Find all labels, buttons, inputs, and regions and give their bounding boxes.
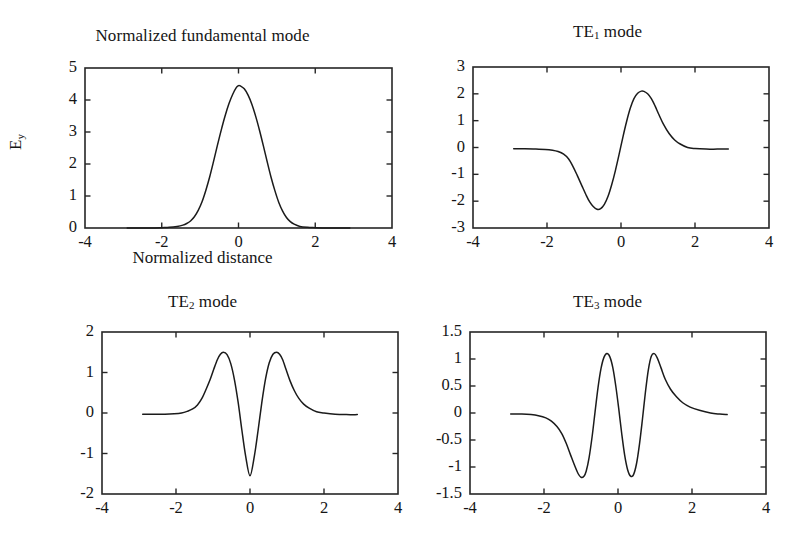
y-tick-label: 2: [33, 153, 77, 173]
y-tick-label: 3: [33, 121, 77, 141]
x-tick-label: 2: [299, 498, 349, 518]
y-tick-label: 2: [50, 321, 94, 341]
panel-te3-mode: TE3 mode -4-2024-1.5-1-0.500.511.5: [405, 276, 810, 552]
y-tick-label: 1: [418, 348, 462, 368]
x-tick-label: 2: [670, 232, 720, 252]
plot-frame: [85, 68, 392, 228]
y-tick-label: -0.5: [418, 429, 462, 449]
data-curve-fundamental: [127, 85, 350, 228]
panel-te1-mode: TE1 mode -4-2024-3-2-10123: [405, 0, 810, 276]
y-tick-label: -1: [50, 443, 94, 463]
y-tick-label: 3: [421, 56, 465, 76]
y-tick-label: -2: [421, 190, 465, 210]
x-tick-label: -2: [522, 232, 572, 252]
panel-fundamental-mode: Normalized fundamental mode Ey Normalize…: [0, 0, 405, 276]
x-tick-label: -2: [151, 498, 201, 518]
y-tick-label: 5: [33, 57, 77, 77]
y-tick-label: 1.5: [418, 321, 462, 341]
y-tick-label: -1: [421, 163, 465, 183]
y-tick-label: -2: [50, 483, 94, 503]
x-tick-label: 4: [741, 498, 791, 518]
y-tick-label: 0: [50, 402, 94, 422]
y-tick-label: 0: [33, 217, 77, 237]
x-tick-label: 0: [596, 232, 646, 252]
x-tick-label: 4: [744, 232, 794, 252]
y-tick-label: 2: [421, 83, 465, 103]
x-tick-label: -2: [519, 498, 569, 518]
x-tick-label: 2: [667, 498, 717, 518]
x-tick-label: 2: [290, 232, 340, 252]
data-curve-TE2: [143, 352, 358, 476]
figure-root: Normalized fundamental mode Ey Normalize…: [0, 0, 810, 552]
y-tick-label: 0.5: [418, 375, 462, 395]
panel-te2-mode: TE2 mode -4-2024-2-1012: [0, 276, 405, 552]
y-tick-label: 0: [421, 137, 465, 157]
y-tick-label: -1.5: [418, 483, 462, 503]
x-tick-label: 0: [225, 498, 275, 518]
plot-frame: [470, 332, 766, 494]
y-tick-label: -1: [418, 456, 462, 476]
data-curve-TE1: [514, 91, 729, 209]
y-tick-label: 1: [50, 362, 94, 382]
data-curve-TE3: [511, 354, 727, 478]
y-tick-label: -3: [421, 217, 465, 237]
y-tick-label: 1: [33, 185, 77, 205]
x-tick-label: 0: [214, 232, 264, 252]
x-tick-label: 0: [593, 498, 643, 518]
x-tick-label: -2: [137, 232, 187, 252]
y-tick-label: 0: [418, 402, 462, 422]
y-tick-label: 1: [421, 110, 465, 130]
y-tick-label: 4: [33, 89, 77, 109]
plot-frame: [102, 332, 398, 494]
